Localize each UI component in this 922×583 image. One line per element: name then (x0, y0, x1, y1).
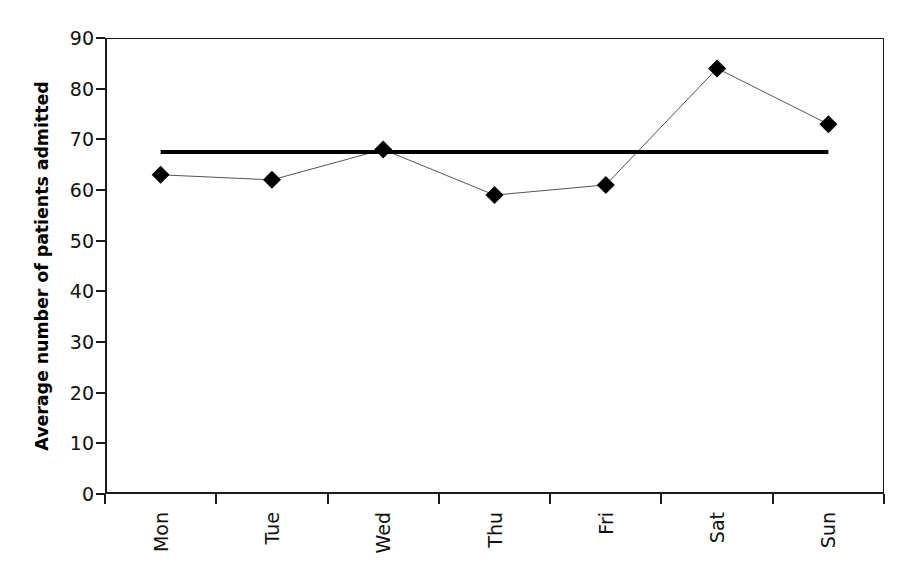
y-tick-mark (96, 341, 105, 343)
x-tick-mark (438, 494, 440, 504)
x-tick-label: Mon (151, 510, 171, 583)
y-tick-label: 40 (50, 282, 94, 301)
x-tick-label: Sat (707, 510, 727, 583)
x-tick-mark (772, 494, 774, 504)
x-tick-mark (883, 494, 885, 504)
plot-area (105, 38, 884, 494)
y-tick-label: 0 (50, 485, 94, 504)
y-tick-mark (96, 290, 105, 292)
y-tick-label: 10 (50, 434, 94, 453)
x-tick-mark (660, 494, 662, 504)
x-tick-label: Sun (818, 510, 838, 583)
y-tick-mark (96, 442, 105, 444)
y-tick-mark (96, 138, 105, 140)
y-tick-mark (96, 37, 105, 39)
x-tick-label: Fri (596, 510, 616, 583)
x-tick-mark (549, 494, 551, 504)
y-tick-label: 60 (50, 181, 94, 200)
y-tick-mark (96, 392, 105, 394)
y-tick-mark (96, 88, 105, 90)
y-tick-mark (96, 240, 105, 242)
line-chart: Average number of patients admitted 0102… (0, 0, 922, 583)
x-tick-mark (215, 494, 217, 504)
x-tick-mark (104, 494, 106, 504)
x-tick-label: Thu (485, 510, 505, 583)
y-tick-mark (96, 189, 105, 191)
y-tick-label: 20 (50, 383, 94, 402)
x-tick-mark (327, 494, 329, 504)
y-tick-label: 90 (50, 29, 94, 48)
x-tick-label: Tue (262, 510, 282, 583)
y-tick-label: 30 (50, 333, 94, 352)
y-axis-tick-labels: 0102030405060708090 (38, 0, 94, 583)
y-tick-label: 50 (50, 231, 94, 250)
x-tick-label: Wed (373, 510, 393, 583)
y-tick-label: 70 (50, 130, 94, 149)
y-tick-label: 80 (50, 79, 94, 98)
